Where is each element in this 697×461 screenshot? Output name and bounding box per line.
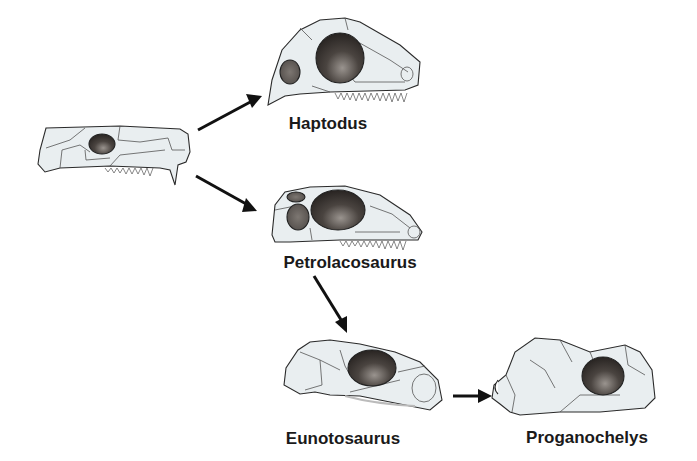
taxon-label-petrolacosaurus: Petrolacosaurus	[283, 253, 416, 272]
petrolacosaurus-skull	[272, 186, 422, 250]
skull-evolution-diagram: Limnoscelis Haptodus Petrolacosaurus	[0, 0, 697, 461]
arrow-limnoscelis-to-haptodus	[198, 100, 254, 130]
eunotosaurus-skull	[284, 340, 442, 410]
arrow-petrolacosaurus-to-eunotosaurus	[314, 276, 343, 323]
arrowhead-icon	[246, 94, 262, 108]
haptodus-skull	[268, 18, 420, 105]
arrowhead-icon	[242, 198, 257, 212]
taxon-label-haptodus: Haptodus	[289, 114, 367, 133]
arrowhead-icon	[478, 389, 492, 403]
proganochelys-skull	[492, 338, 655, 415]
taxon-label-eunotosaurus: Eunotosaurus	[286, 429, 400, 448]
limnoscelis-skull	[38, 126, 190, 185]
taxon-label-proganochelys: Proganochelys	[526, 428, 648, 447]
arrow-limnoscelis-to-petrolacosaurus	[196, 176, 248, 205]
